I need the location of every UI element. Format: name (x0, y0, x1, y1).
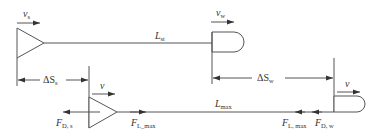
force-label: FL, max (281, 117, 307, 129)
force-link-front: FL, max (281, 112, 307, 129)
bottom-front-velocity: v (337, 78, 360, 92)
force-label: FL_max (130, 117, 156, 129)
bottom-front-vehicle (334, 58, 365, 112)
d-shape-vehicle-icon (212, 32, 244, 52)
force-label: FD, w (314, 117, 334, 129)
vehicle-gap-diagram: vs Lst vw ΔSs ΔSw v Lmax FD, s FL_max (0, 0, 386, 136)
top-gap-label: Lst (154, 30, 165, 42)
rear-displacement: ΔSs (18, 74, 88, 86)
displacement-label: ΔSs (43, 74, 58, 86)
triangle-vehicle-icon (17, 28, 44, 58)
top-front-vehicle (212, 32, 244, 84)
velocity-label: v (100, 80, 105, 91)
d-shape-vehicle-icon (334, 96, 365, 112)
top-front-velocity: vw (211, 7, 234, 22)
bottom-gap-label: Lmax (214, 98, 233, 110)
velocity-label: v (345, 78, 350, 89)
bottom-rear-velocity: v (92, 80, 115, 94)
force-link-rear: FL_max (130, 112, 156, 129)
force-label: FD, s (55, 117, 73, 129)
top-rear-vehicle (17, 28, 44, 86)
velocity-label: vs (23, 8, 30, 20)
velocity-label: vw (216, 7, 225, 19)
bottom-rear-vehicle (89, 66, 117, 128)
front-displacement: ΔSw (213, 72, 333, 84)
top-rear-velocity: vs (17, 8, 40, 23)
force-drag-front: FD, w (312, 112, 334, 129)
displacement-label: ΔSw (257, 72, 274, 84)
